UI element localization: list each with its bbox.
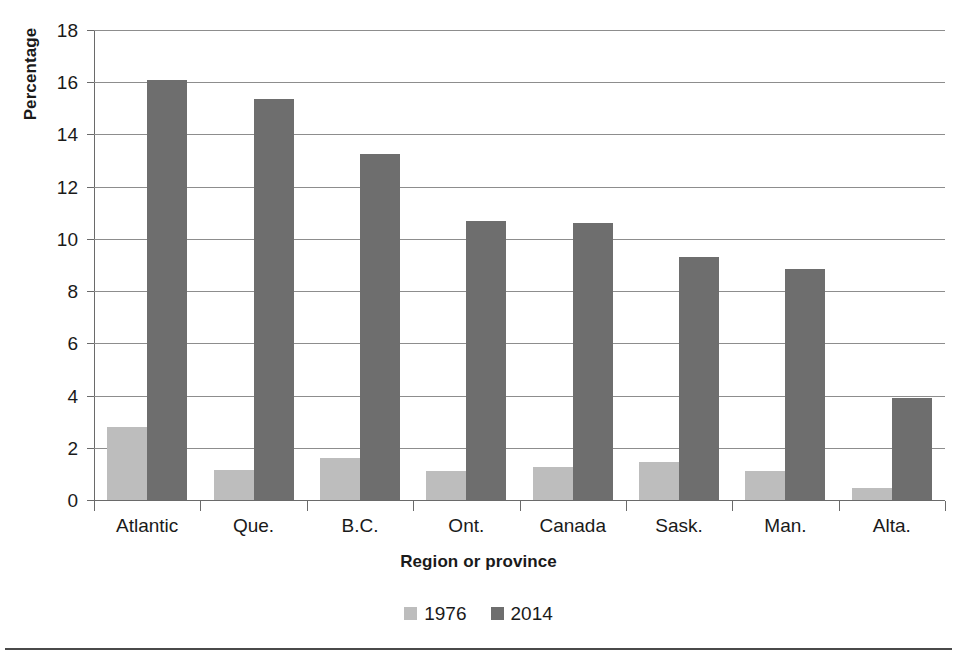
y-tick-mark: [87, 187, 94, 188]
y-tick-label: 10: [40, 230, 78, 249]
bar-2014: [785, 269, 825, 500]
x-tick-label: Alta.: [812, 515, 957, 537]
y-tick-label: 4: [40, 387, 78, 406]
legend-swatch-2014: [491, 607, 504, 620]
x-tick-mark: [307, 501, 308, 511]
footer-divider: [5, 648, 952, 650]
bar-1976: [107, 427, 147, 500]
x-tick-mark: [200, 501, 201, 511]
bar-2014: [466, 221, 506, 500]
bar-1976: [533, 467, 573, 500]
bar-2014: [360, 154, 400, 500]
bar-2014: [892, 398, 932, 500]
legend-item-2014[interactable]: 2014: [491, 604, 553, 623]
bar-group: [214, 30, 294, 500]
x-tick-mark: [945, 501, 946, 511]
bar-group: [426, 30, 506, 500]
bar-2014: [679, 257, 719, 500]
bar-1976: [745, 471, 785, 500]
y-tick-mark: [87, 82, 94, 83]
y-tick-label: 6: [40, 334, 78, 353]
legend-item-1976[interactable]: 1976: [404, 604, 466, 623]
bar-1976: [852, 488, 892, 500]
plot-area: 181614121086420AtlanticQue.B.C.Ont.Canad…: [94, 30, 945, 501]
bar-1976: [214, 470, 254, 500]
y-tick-mark: [87, 343, 94, 344]
y-tick-label: 16: [40, 73, 78, 92]
y-tick-mark: [87, 500, 94, 501]
y-tick-label: 12: [40, 178, 78, 197]
bar-2014: [573, 223, 613, 500]
legend-label: 1976: [424, 604, 466, 623]
bar-1976: [320, 458, 360, 500]
bar-group: [852, 30, 932, 500]
bar-1976: [426, 471, 466, 500]
y-tick-label: 18: [40, 21, 78, 40]
y-tick-mark: [87, 134, 94, 135]
legend-label: 2014: [511, 604, 553, 623]
y-tick-label: 2: [40, 439, 78, 458]
bar-group: [107, 30, 187, 500]
bar-chart-figure: Percentage 181614121086420AtlanticQue.B.…: [0, 0, 957, 662]
x-tick-mark: [413, 501, 414, 511]
bar-group: [745, 30, 825, 500]
y-tick-mark: [87, 396, 94, 397]
bar-group: [639, 30, 719, 500]
y-tick-label: 8: [40, 282, 78, 301]
x-tick-mark: [520, 501, 521, 511]
chart-legend: 19762014: [0, 604, 957, 623]
y-tick-mark: [87, 448, 94, 449]
y-axis-line: [94, 30, 95, 501]
bar-1976: [639, 462, 679, 500]
x-tick-mark: [626, 501, 627, 511]
y-tick-mark: [87, 30, 94, 31]
x-tick-mark: [94, 501, 95, 511]
bar-2014: [147, 80, 187, 500]
bar-group: [320, 30, 400, 500]
x-tick-mark: [839, 501, 840, 511]
y-tick-label: 14: [40, 125, 78, 144]
y-tick-mark: [87, 239, 94, 240]
x-tick-mark: [732, 501, 733, 511]
legend-swatch-1976: [404, 607, 417, 620]
y-tick-mark: [87, 291, 94, 292]
x-axis-title: Region or province: [0, 552, 957, 572]
bar-2014: [254, 99, 294, 500]
bar-group: [533, 30, 613, 500]
y-tick-label: 0: [40, 491, 78, 510]
